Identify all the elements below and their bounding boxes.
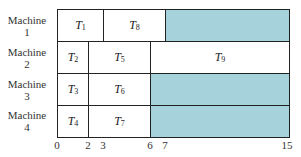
axis-tick: 3 [100,139,106,151]
machine-number: 3 [0,90,54,102]
task-t3: T3 [57,73,89,106]
task-t4: T4 [57,105,89,138]
task-t7: T7 [88,105,151,138]
machine-label-1: Machine 1 [0,14,54,38]
idle-block [165,9,290,42]
task-subscript: 5 [121,55,125,64]
task-name: T [68,82,75,97]
machine-label-text: Machine [0,109,54,121]
axis-tick: 2 [85,139,91,151]
task-name: T [68,50,75,65]
machine-label-text: Machine [0,46,54,58]
task-subscript: 2 [74,55,78,64]
task-name: T [114,82,121,97]
task-name: T [215,50,222,65]
task-subscript: 4 [74,119,78,128]
task-name: T [114,50,121,65]
idle-block [150,73,290,106]
task-name: T [129,18,136,33]
task-t2: T2 [57,41,89,74]
task-t5: T5 [88,41,151,74]
task-subscript: 6 [121,87,125,96]
machine-number: 1 [0,26,54,38]
machine-label-text: Machine [0,78,54,90]
task-subscript: 1 [82,23,86,32]
task-t8: T8 [103,9,166,42]
axis-tick: 15 [282,139,293,151]
axis-tick: 6 [147,139,153,151]
machine-number: 2 [0,58,54,70]
task-t6: T6 [88,73,151,106]
task-t9: T9 [150,41,290,74]
task-subscript: 3 [74,87,78,96]
idle-block [150,105,290,138]
task-name: T [114,114,121,129]
axis-tick: 7 [162,139,168,151]
machine-number: 4 [0,121,54,133]
task-subscript: 9 [221,55,225,64]
task-subscript: 7 [121,119,125,128]
task-name: T [68,114,75,129]
task-subscript: 8 [136,23,140,32]
machine-label-2: Machine 2 [0,46,54,70]
machine-label-text: Machine [0,14,54,26]
task-name: T [75,18,82,33]
axis-tick: 0 [54,139,60,151]
machine-label-3: Machine 3 [0,78,54,102]
machine-label-4: Machine 4 [0,109,54,133]
task-t1: T1 [57,9,104,42]
